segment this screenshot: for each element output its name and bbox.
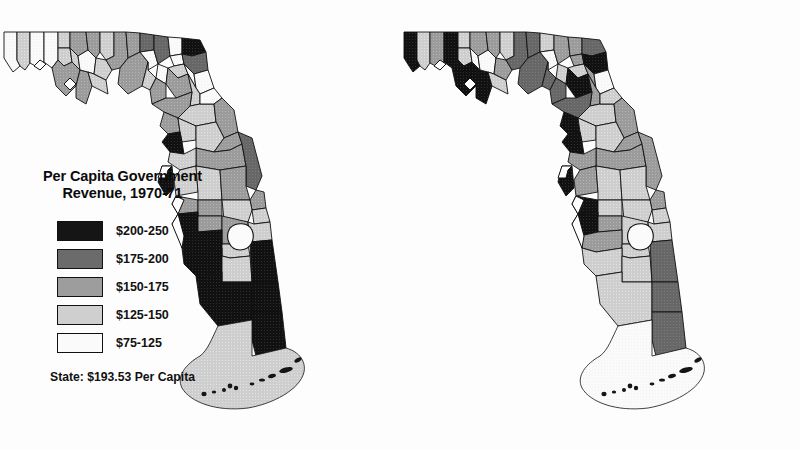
- left-legend-title-line2: Revenue, 1970-71: [10, 185, 235, 202]
- left-legend-title-line1: Per Capita Government: [43, 168, 202, 184]
- legend-swatch-label: $200-250: [116, 224, 169, 238]
- legend-swatch: [57, 249, 103, 269]
- legend-item: $150-175: [57, 273, 235, 301]
- legend-swatch: [57, 333, 103, 353]
- florida-choropleth-county-millage-rates: [400, 0, 800, 450]
- legend-item: $75-125: [57, 329, 235, 357]
- legend-swatch-label: $150-175: [116, 280, 169, 294]
- legend-swatch: [57, 221, 103, 241]
- legend-item: $200-250: [57, 217, 235, 245]
- left-legend-rows: $200-250 $175-200 $150-175 $125-150 $75-…: [10, 217, 235, 357]
- left-legend-title: Per Capita Government Revenue, 1970-71: [10, 168, 235, 202]
- legend-swatch: [57, 305, 103, 325]
- left-legend: Per Capita Government Revenue, 1970-71 $…: [10, 168, 235, 384]
- legend-swatch-label: $75-125: [116, 336, 162, 350]
- left-map-panel: Per Capita Government Revenue, 1970-71 $…: [0, 0, 400, 450]
- figure-canvas: Per Capita Government Revenue, 1970-71 $…: [0, 0, 800, 450]
- left-map-footnote: State: $193.53 Per Capita: [10, 370, 235, 384]
- legend-item: $125-150: [57, 301, 235, 329]
- legend-item: $175-200: [57, 245, 235, 273]
- lake-okeechobee: [628, 224, 654, 250]
- legend-swatch-label: $125-150: [116, 308, 169, 322]
- right-map-panel: County Millage Rates 1971 20.00-24.00 18…: [400, 0, 800, 450]
- legend-swatch: [57, 277, 103, 297]
- legend-swatch-label: $175-200: [116, 252, 169, 266]
